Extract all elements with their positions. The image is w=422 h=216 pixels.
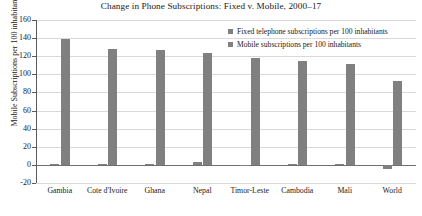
gridline [36, 183, 416, 184]
bar [393, 81, 402, 165]
bar [98, 164, 107, 165]
bar [145, 164, 154, 165]
bar [61, 39, 70, 165]
x-axis-label: Cote d'Ivoire [84, 186, 132, 195]
x-axis-label: Cambodia [274, 186, 322, 195]
bar [298, 61, 307, 165]
legend-item-mobile: Mobile subscriptions per 100 inhabitants [228, 38, 420, 51]
chart-figure: Change in Phone Subscriptions: Fixed v. … [0, 0, 422, 216]
y-tick-mark [32, 129, 36, 130]
bar [288, 164, 297, 165]
legend-swatch-fixed-icon [228, 29, 233, 34]
y-tick-mark [32, 92, 36, 93]
y-tick-mark [32, 38, 36, 39]
bar [383, 165, 392, 170]
y-tick-label: 160 [0, 16, 31, 24]
y-tick-label: 100 [0, 70, 31, 78]
x-axis-label: Mali [321, 186, 369, 195]
x-axis-label: World [369, 186, 417, 195]
bar [50, 164, 59, 165]
legend-label-mobile: Mobile subscriptions per 100 inhabitants [237, 40, 361, 49]
chart-title: Change in Phone Subscriptions: Fixed v. … [0, 1, 422, 11]
y-tick-mark [32, 183, 36, 184]
chart-legend: Fixed telephone subscriptions per 100 in… [228, 25, 420, 51]
y-tick-label: 0 [0, 161, 31, 169]
y-tick-mark [32, 74, 36, 75]
y-tick-label: 80 [0, 88, 31, 96]
x-axis-label: Ghana [131, 186, 179, 195]
y-tick-mark [32, 147, 36, 148]
y-axis-line [36, 20, 37, 183]
bar [251, 58, 260, 165]
y-tick-mark [32, 20, 36, 21]
y-tick-label: 60 [0, 107, 31, 115]
y-tick-label: 20 [0, 143, 31, 151]
bar [108, 49, 117, 165]
x-axis-label: Nepal [179, 186, 227, 195]
y-tick-label: 120 [0, 52, 31, 60]
legend-swatch-mobile-icon [228, 42, 233, 47]
bar [203, 53, 212, 165]
bar [240, 165, 249, 166]
bar [193, 162, 202, 165]
bar [335, 164, 344, 165]
y-tick-mark [32, 165, 36, 166]
bar [346, 64, 355, 165]
x-axis-labels: GambiaCote d'IvoireGhanaNepalTimor-Leste… [36, 186, 416, 198]
x-axis-label: Timor-Leste [226, 186, 274, 195]
x-axis-label: Gambia [36, 186, 84, 195]
bar [156, 50, 165, 165]
y-tick-label: -20 [0, 179, 31, 187]
y-tick-label: 40 [0, 125, 31, 133]
legend-item-fixed: Fixed telephone subscriptions per 100 in… [228, 25, 420, 38]
y-tick-mark [32, 111, 36, 112]
y-tick-label: 140 [0, 34, 31, 42]
y-tick-mark [32, 56, 36, 57]
legend-label-fixed: Fixed telephone subscriptions per 100 in… [237, 27, 388, 36]
